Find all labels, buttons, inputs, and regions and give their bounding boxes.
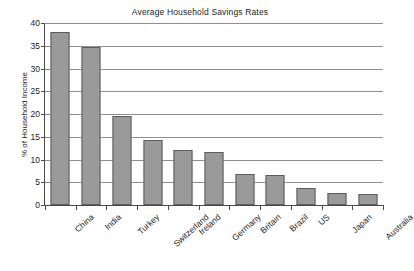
x-category-label: Japan <box>350 212 374 235</box>
y-tick-label-35: 35 <box>6 41 40 51</box>
x-category-label: Brazil <box>288 212 310 234</box>
bar[interactable] <box>112 116 131 205</box>
bar-slot <box>106 23 137 205</box>
bar-slot <box>45 23 76 205</box>
x-tick-mark <box>106 205 107 210</box>
bar[interactable] <box>297 188 316 205</box>
x-tick-mark <box>199 205 200 210</box>
bar-slot <box>260 23 291 205</box>
y-tick-label-25: 25 <box>6 86 40 96</box>
bar[interactable] <box>51 32 70 205</box>
x-tick-mark <box>229 205 230 210</box>
y-tick-label-10: 10 <box>6 155 40 165</box>
y-tick-label-15: 15 <box>6 132 40 142</box>
bar-slot <box>76 23 107 205</box>
x-category-label: Turkey <box>135 212 161 237</box>
x-category-label: US <box>316 212 331 227</box>
x-tick-mark <box>352 205 353 210</box>
bar-slot <box>352 23 383 205</box>
x-tick-mark <box>322 205 323 210</box>
x-category-label: China <box>73 212 96 234</box>
bar-slot <box>199 23 230 205</box>
x-tick-mark <box>137 205 138 210</box>
x-tick-mark <box>291 205 292 210</box>
y-tick-label-5: 5 <box>6 177 40 187</box>
chart-title: Average Household Savings Rates <box>0 7 400 17</box>
bar-slot <box>168 23 199 205</box>
bar[interactable] <box>358 194 377 205</box>
bar[interactable] <box>266 175 285 205</box>
bar-slot <box>137 23 168 205</box>
y-tick-label-20: 20 <box>6 109 40 119</box>
x-tick-mark <box>260 205 261 210</box>
bar[interactable] <box>204 152 223 205</box>
bar[interactable] <box>82 47 101 205</box>
bar-slot <box>322 23 353 205</box>
x-tick-mark <box>383 205 384 210</box>
x-category-label: India <box>103 212 123 232</box>
y-tick-label-0: 0 <box>6 200 40 210</box>
bar[interactable] <box>235 174 254 205</box>
bar-slot <box>291 23 322 205</box>
x-tick-mark <box>76 205 77 210</box>
bar[interactable] <box>174 150 193 206</box>
y-tick-label-30: 30 <box>6 64 40 74</box>
x-tick-mark <box>168 205 169 210</box>
y-tick-label-40: 40 <box>6 18 40 28</box>
x-axis-line <box>45 205 383 206</box>
bar[interactable] <box>327 193 346 205</box>
plot-area <box>45 23 383 205</box>
bar-slot <box>229 23 260 205</box>
x-category-label: Britain <box>258 212 283 236</box>
bar[interactable] <box>143 140 162 205</box>
x-tick-mark <box>45 205 46 210</box>
x-category-label: Australia <box>383 212 414 242</box>
